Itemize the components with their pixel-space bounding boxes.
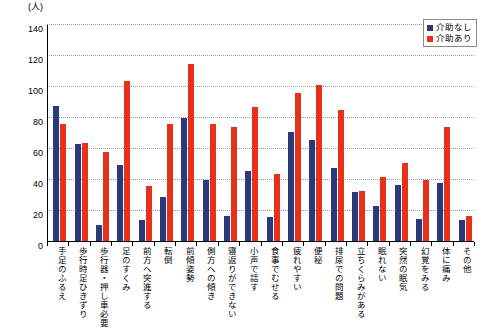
x-axis-tick [346, 242, 347, 246]
x-axis-label: 前方へ突進する [136, 247, 150, 310]
x-axis-label: 足のすくみ [115, 247, 129, 292]
legend-label: 介助あり [436, 34, 472, 43]
plot-area [47, 25, 474, 242]
x-axis-label: 寝返りができない [221, 247, 235, 319]
x-axis-label: 突然の眠気 [392, 247, 406, 292]
y-axis-tick-labels: 020406080100120140 [0, 25, 43, 242]
legend-color-swatch [427, 25, 433, 31]
x-axis-tick [261, 242, 262, 246]
x-axis-tick [410, 242, 411, 246]
x-axis-tick [175, 242, 176, 246]
x-axis-tick [196, 242, 197, 246]
x-axis-label: 小声で話す [243, 247, 257, 292]
x-axis-label: 歩行時足ひきずり [72, 247, 86, 319]
x-axis-label: 幻覚をみる [414, 247, 428, 292]
x-axis-label: 食事でむせる [264, 247, 278, 301]
x-axis-label: 歩行器・押し車必要 [93, 247, 107, 328]
x-axis-category-labels: 手足のふるえ歩行時足ひきずり歩行器・押し車必要足のすくみ前方へ突進する転倒前傾姿… [47, 247, 474, 335]
x-axis-tick [47, 242, 48, 246]
x-axis-tick [282, 242, 283, 246]
axis-lines [47, 25, 474, 242]
x-axis-tick [303, 242, 304, 246]
x-axis-tick [431, 242, 432, 246]
chart-legend: 介助なし介助あり [423, 19, 477, 47]
x-axis-tick [325, 242, 326, 246]
legend-item[interactable]: 介助あり [427, 33, 472, 44]
x-axis-label: 前傾姿勢 [179, 247, 193, 283]
x-axis-label: 眠れない [371, 247, 385, 283]
x-axis-tick [132, 242, 133, 246]
x-axis-label: 疲れやすい [286, 247, 300, 292]
x-axis-label: 体に痛み [435, 247, 449, 283]
legend-label: 介助なし [436, 23, 472, 32]
x-axis-tick [154, 242, 155, 246]
bar-chart: (人) 020406080100120140 手足のふるえ歩行時足ひきずり歩行器… [0, 0, 486, 335]
legend-color-swatch [427, 36, 433, 42]
x-axis-tick [239, 242, 240, 246]
x-axis-tick [90, 242, 91, 246]
x-axis-label: 排尿での問題 [328, 247, 342, 301]
x-axis-label: 側方への傾き [200, 247, 214, 301]
x-axis-tick [218, 242, 219, 246]
y-axis-unit-label: (人) [28, 2, 43, 12]
x-axis-label: 転倒 [157, 247, 171, 265]
x-axis-tick [68, 242, 69, 246]
legend-item[interactable]: 介助なし [427, 22, 472, 33]
x-axis-tick [111, 242, 112, 246]
x-axis-tick [389, 242, 390, 246]
x-axis-label: その他 [456, 247, 470, 274]
x-axis-tick [453, 242, 454, 246]
x-axis-label: 立ちくらみがある [350, 247, 364, 319]
x-axis-tick [367, 242, 368, 246]
x-axis-tick [474, 242, 475, 246]
x-axis-label: 手足のふるえ [51, 247, 65, 301]
x-axis-label: 便秘 [307, 247, 321, 265]
